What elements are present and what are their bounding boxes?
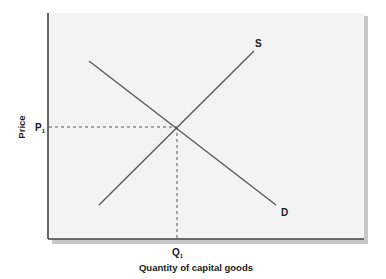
supply-label: S [255,38,262,49]
plot-area [48,13,364,239]
chart: S D P1 Q1 Quantity of capital goods Pric… [0,0,386,279]
y-axis-title: Price [16,115,27,138]
x-axis-title: Quantity of capital goods [139,262,253,273]
p1-tick-label: P1 [35,122,46,134]
demand-label: D [281,207,288,218]
q1-tick-label: Q1 [172,247,184,259]
